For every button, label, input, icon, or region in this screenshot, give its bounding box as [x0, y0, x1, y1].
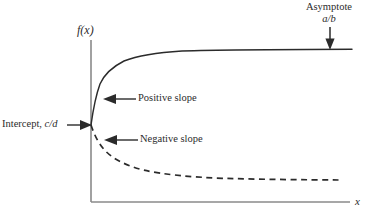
negative-slope-arrow-icon — [104, 135, 138, 145]
y-axis-label: f(x) — [77, 24, 94, 36]
asymptote-arrow-icon — [325, 27, 334, 50]
asymptote-label: Asymptote — [306, 1, 352, 12]
positive-slope-curve — [91, 49, 352, 125]
x-axis-label: x — [355, 196, 360, 207]
intercept-value: c/d — [45, 118, 58, 129]
negative-slope-annotation: Negative slope — [140, 133, 203, 144]
positive-slope-annotation: Positive slope — [138, 92, 197, 103]
positive-slope-arrow-icon — [103, 94, 136, 104]
intercept-label: Intercept, — [2, 118, 45, 129]
negative-slope-curve — [91, 125, 340, 180]
intercept-arrow-icon — [67, 120, 92, 130]
function-shape-diagram: f(x) x Asymptote a/b Positive slope Nega… — [0, 0, 371, 218]
asymptote-value: a/b — [296, 13, 362, 24]
intercept-annotation: Intercept, c/d — [2, 118, 57, 129]
plot-area — [0, 0, 371, 218]
asymptote-annotation: Asymptote a/b — [296, 1, 362, 24]
